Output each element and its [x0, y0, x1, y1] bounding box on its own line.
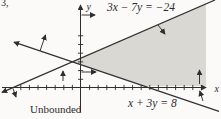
- exercise-number: 3,: [1, 0, 9, 8]
- x-axis-label: x: [214, 83, 220, 94]
- graph-canvas: 3, 3x − 7y = −24 x + 3y = 8 Unbounded y …: [0, 0, 221, 119]
- line1-direction-arrow-left: [13, 89, 16, 98]
- line2-direction-arrow-right: [200, 91, 203, 101]
- y-axis-label: y: [86, 1, 92, 12]
- equation-label-line1: 3x − 7y = −24: [106, 1, 175, 14]
- region-label: Unbounded: [30, 103, 82, 115]
- solution-region-shading: [72, 4, 206, 86]
- line2-direction-arrow-left: [40, 35, 46, 51]
- inequality-system-graph: 3, 3x − 7y = −24 x + 3y = 8 Unbounded y …: [0, 0, 221, 119]
- equation-label-line2: x + 3y = 8: [127, 97, 177, 110]
